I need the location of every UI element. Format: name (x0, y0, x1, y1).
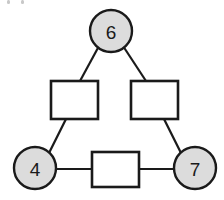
node-top[interactable] (90, 10, 132, 52)
edge-box-left-to-node-bottom-left (49, 119, 66, 153)
edge-top-to-box-right (123, 46, 146, 81)
node-bottom-left[interactable] (14, 147, 56, 189)
graph-diagram: 6 4 7 (0, 0, 224, 200)
box-bottom[interactable] (92, 152, 139, 187)
edge-box-right-to-node-bottom-right (164, 119, 181, 153)
edge-top-to-box-left (80, 46, 99, 81)
diagram-canvas: 6 4 7 (0, 0, 224, 200)
square-node-group (51, 81, 178, 187)
box-left[interactable] (51, 81, 98, 119)
box-right[interactable] (131, 81, 178, 119)
node-bottom-right[interactable] (174, 147, 216, 189)
